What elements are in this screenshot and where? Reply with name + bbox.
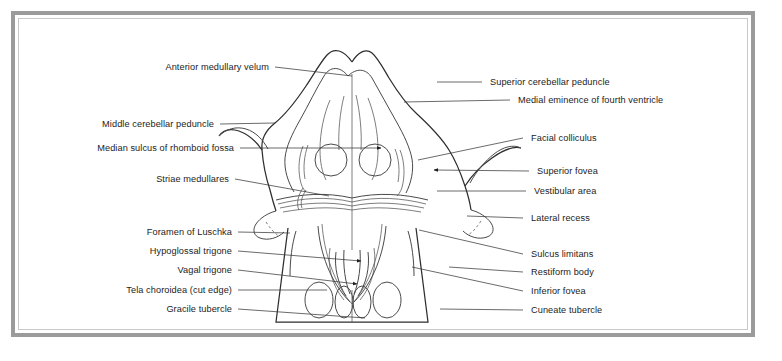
label-left-2: Median sulcus of rhomboid fossa [76,143,234,153]
label-right-2: Facial colliculus [531,133,597,143]
label-left-6: Vagal trigone [165,265,232,275]
label-right-6: Sulcus limitans [531,249,593,259]
leader-right-3 [434,170,529,171]
brainstem-diagram [0,0,782,361]
label-right-1: Medial eminence of fourth ventricle [518,95,663,105]
figure-frame: Anterior medullary velumMiddle cerebella… [0,0,782,361]
label-left-4: Foramen of Luschka [111,227,232,237]
label-left-5: Hypoglossal trigone [119,246,232,256]
label-left-7: Tela choroidea (cut edge) [92,285,232,295]
label-left-3: Striae medullares [148,174,229,184]
leader-right-6 [419,230,523,254]
label-left-1: Middle cerebellar peduncle [84,119,214,129]
leader-left-8 [238,309,365,318]
label-right-9: Cuneate tubercle [531,305,602,315]
leader-lines-right [404,82,529,310]
leader-right-9 [440,309,523,310]
brainstem-outline [219,51,521,322]
leader-right-7 [449,267,523,272]
leader-right-1 [404,100,510,102]
leader-right-5 [467,216,523,218]
label-right-3: Superior fovea [537,166,598,176]
leader-left-4 [238,232,290,233]
leader-left-5 [238,251,361,261]
label-right-7: Restiform body [531,267,594,277]
label-right-0: Superior cerebellar peduncle [490,77,610,87]
label-left-8: Gracile tubercle [150,304,232,314]
label-right-8: Inferior fovea [531,286,586,296]
label-right-4: Vestibular area [534,186,597,196]
leader-left-3 [235,179,329,196]
leader-left-6 [238,270,357,284]
label-right-5: Lateral recess [531,213,590,223]
leader-left-1 [220,123,275,124]
label-left-0: Anterior medullary velum [141,62,269,72]
